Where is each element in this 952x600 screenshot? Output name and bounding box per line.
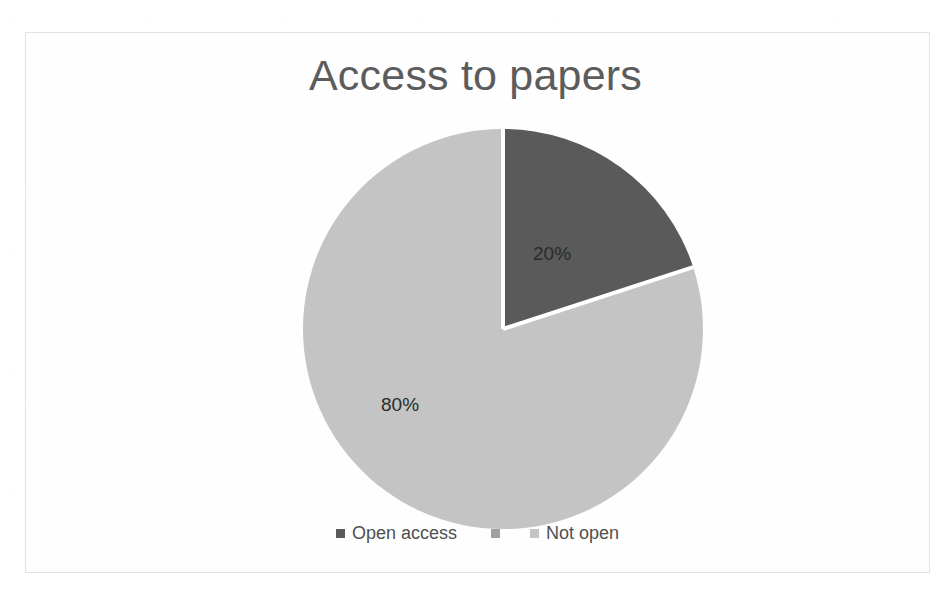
pie-data-label-not-open: 80% [381,394,419,416]
legend-swatch-icon-not-open [530,529,539,538]
pie-chart-area: 20% 80% [26,33,931,574]
legend-item-blank[interactable] [491,529,500,538]
legend-item-not-open[interactable]: Not open [530,523,619,544]
chart-frame: Access to papers 20% 80% Open access [25,32,930,573]
legend-item-open-access[interactable]: Open access [336,523,457,544]
legend-label-not-open: Not open [546,523,619,544]
pie-data-label-open-access: 20% [533,243,571,265]
legend-swatch-icon-open-access [336,529,345,538]
pie-chart-graphic [303,129,703,529]
chart-legend: Open access Not open [26,523,929,544]
legend-label-open-access: Open access [352,523,457,544]
legend-swatch-icon-blank [491,529,500,538]
